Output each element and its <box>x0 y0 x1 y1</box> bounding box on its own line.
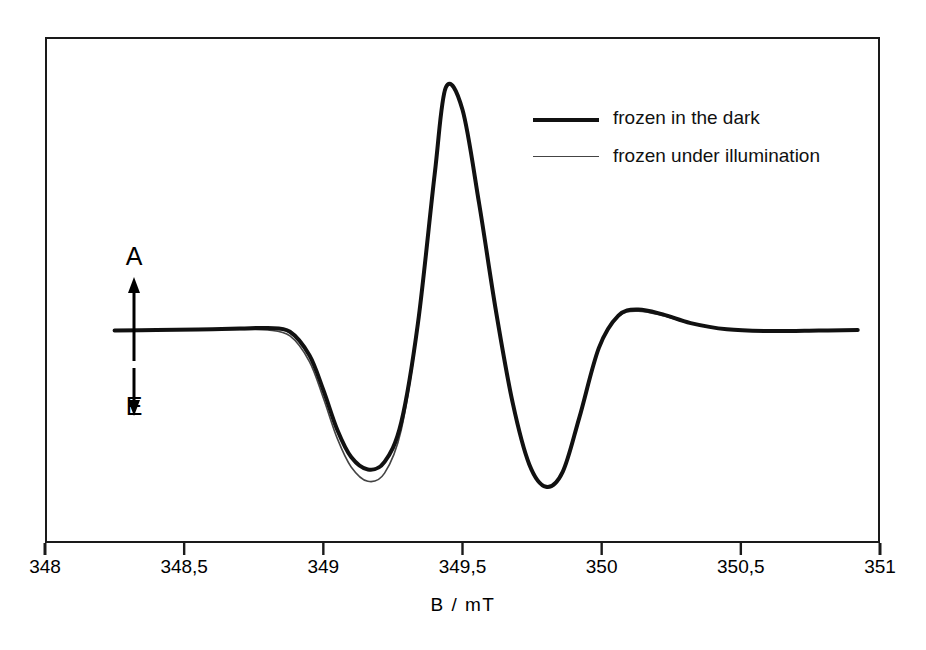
legend-label: frozen in the dark <box>613 106 760 130</box>
x-tick-label-349-5: 349,5 <box>423 556 503 578</box>
legend-item-1: frozen under illumination <box>531 142 851 176</box>
absorption-emission-annotation: A E <box>108 243 160 428</box>
x-tick-label-350: 350 <box>562 556 642 578</box>
legend-label: frozen under illumination <box>613 144 820 168</box>
absorption-label: A <box>108 243 160 269</box>
emission-label: E <box>108 393 160 419</box>
x-tick-label-348: 348 <box>5 556 85 578</box>
legend-line-swatch <box>533 118 599 122</box>
x-tick-label-351: 351 <box>840 556 920 578</box>
x-tick-label-349: 349 <box>283 556 363 578</box>
epr-spectrum-figure: A E frozen in the darkfrozen under illum… <box>0 0 926 650</box>
x-axis-tick-marks <box>45 543 880 555</box>
legend-item-0: frozen in the dark <box>531 104 851 138</box>
legend: frozen in the darkfrozen under illuminat… <box>531 104 851 180</box>
x-axis-title: B / mT <box>0 594 926 616</box>
x-tick-label-348-5: 348,5 <box>144 556 224 578</box>
up-arrow-icon <box>128 277 140 361</box>
legend-line-swatch <box>533 156 599 157</box>
x-tick-label-350-5: 350,5 <box>701 556 781 578</box>
